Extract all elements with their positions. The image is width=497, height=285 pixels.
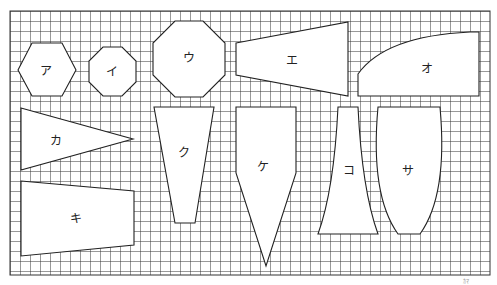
- shape-label: エ: [286, 54, 298, 68]
- shape-label: サ: [402, 164, 414, 178]
- shape-i-octagon: イ: [89, 47, 136, 96]
- shape-label: コ: [343, 164, 355, 178]
- shape-label: カ: [50, 134, 62, 148]
- shape-label: ケ: [257, 160, 269, 174]
- shape-label: イ: [106, 65, 118, 79]
- shape-label: ア: [40, 64, 52, 78]
- shape-label: ウ: [183, 51, 195, 65]
- shape-label: ク: [178, 146, 190, 160]
- shape-label: オ: [421, 62, 433, 76]
- shape-u-octagon: ウ: [153, 21, 225, 97]
- footnote-mark: ｶﾏ: [463, 277, 469, 284]
- shape-ki-trapezoid: キ: [21, 181, 134, 256]
- shape-grid-diagram: ア イ ウ エ オ カ キ ク ケ コ サ ｶﾏ: [0, 0, 497, 285]
- shape-label: キ: [70, 212, 82, 226]
